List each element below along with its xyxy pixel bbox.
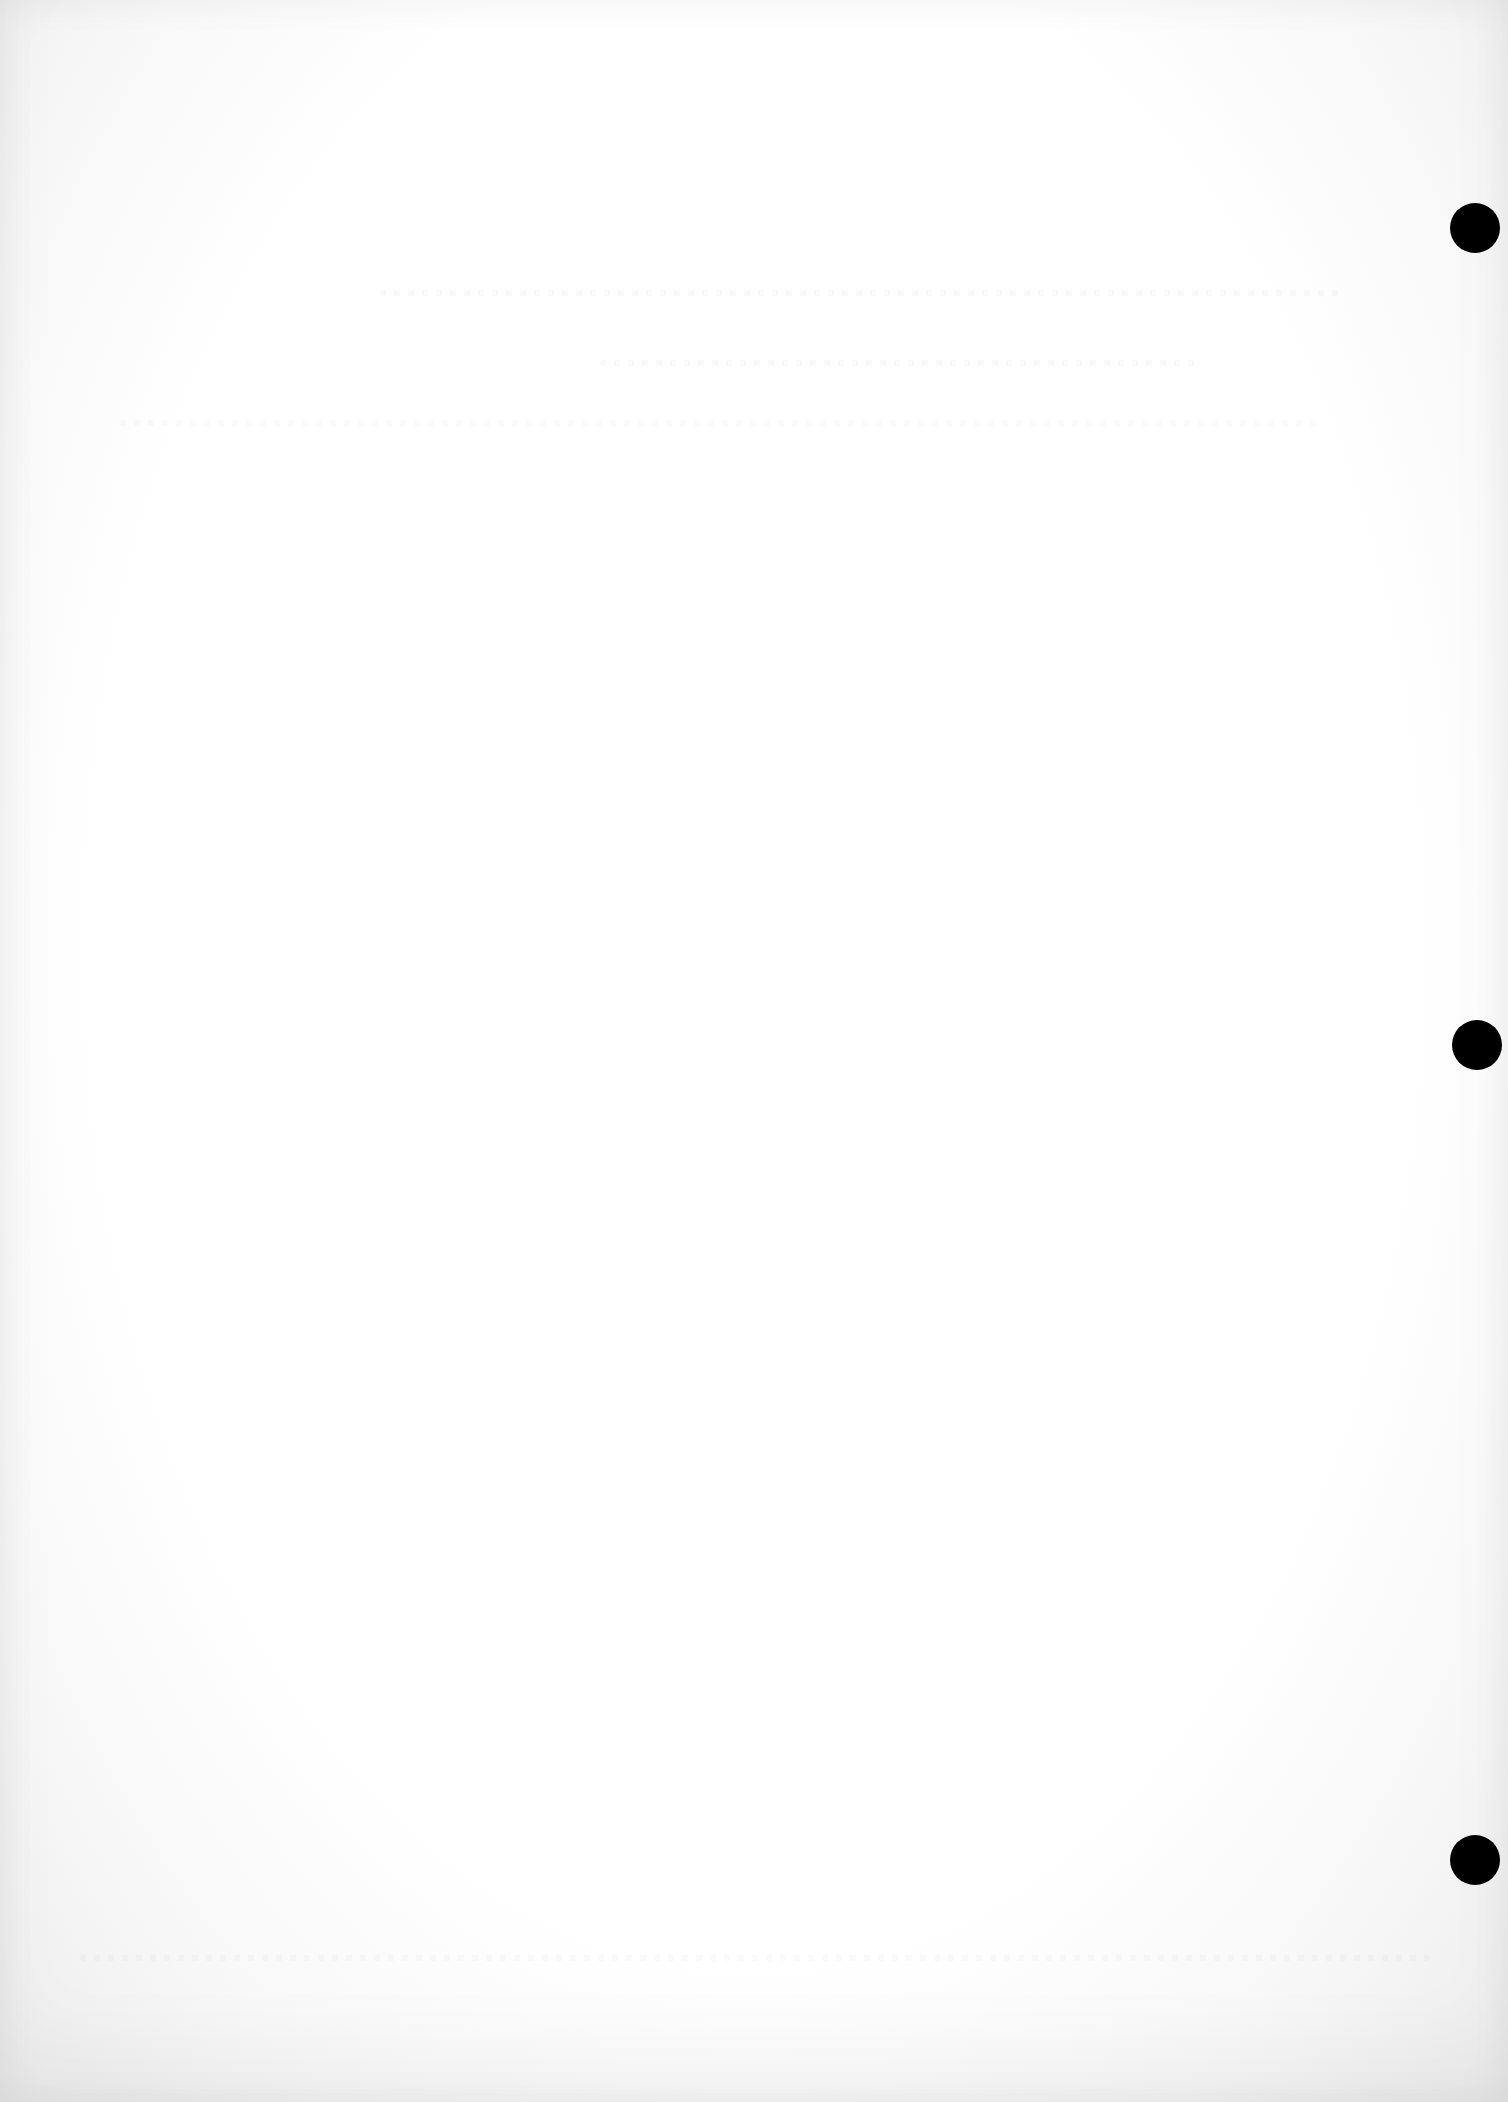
punch-hole-middle <box>1452 1020 1502 1070</box>
punch-hole-top <box>1450 203 1500 253</box>
punch-hole-bottom <box>1450 1835 1500 1885</box>
bleed-through-mark <box>80 1955 1430 1961</box>
page-text <box>0 0 1 1</box>
bleed-through-mark <box>600 360 1200 366</box>
bleed-through-mark <box>380 290 1340 296</box>
bleed-through-mark <box>120 420 1320 426</box>
scan-edge-shading <box>0 0 1508 2102</box>
scanned-page <box>0 0 1508 2102</box>
